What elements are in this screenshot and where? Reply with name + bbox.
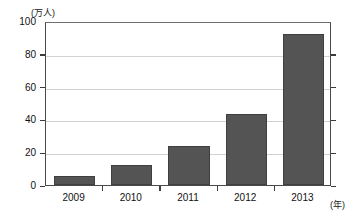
bar-2012 <box>226 114 267 185</box>
x-tick <box>217 186 218 191</box>
y-axis-tick-label: 40 <box>8 114 36 125</box>
x-tick <box>274 186 275 191</box>
y-axis-tick-label: 20 <box>8 147 36 158</box>
x-axis-unit-label: (年) <box>330 198 345 211</box>
bar-2011 <box>168 146 209 185</box>
y-tick-right-60 <box>331 87 336 88</box>
y-tick-left-20 <box>40 153 45 154</box>
x-axis-tick-label: 2010 <box>108 192 154 203</box>
y-tick-left-0 <box>40 186 45 187</box>
bar-chart: (万人) (年) 020406080100 200920102011201220… <box>0 0 354 219</box>
y-axis-tick-label: 100 <box>8 16 36 27</box>
x-axis-tick-label: 2011 <box>165 192 211 203</box>
x-tick <box>159 186 160 191</box>
x-axis-tick-label: 2012 <box>222 192 268 203</box>
y-axis-tick-label: 0 <box>8 180 36 191</box>
x-axis-tick-label: 2013 <box>279 192 325 203</box>
x-axis-tick-label: 2009 <box>51 192 97 203</box>
y-tick-left-60 <box>40 87 45 88</box>
y-tick-right-40 <box>331 120 336 121</box>
bar-2009 <box>54 176 95 185</box>
y-tick-right-20 <box>331 153 336 154</box>
y-axis-tick-label: 80 <box>8 49 36 60</box>
y-tick-left-40 <box>40 120 45 121</box>
x-tick <box>102 186 103 191</box>
bar-2010 <box>111 165 152 186</box>
bar-2013 <box>283 34 324 185</box>
y-tick-right-80 <box>331 54 336 55</box>
y-axis-tick-label: 60 <box>8 82 36 93</box>
y-tick-right-0 <box>331 186 336 187</box>
y-tick-left-80 <box>40 54 45 55</box>
plot-area <box>45 22 331 186</box>
